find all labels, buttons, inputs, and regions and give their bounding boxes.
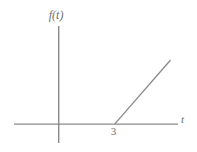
y-axis-label: f(t) [49, 9, 64, 21]
ramp-function-figure: f(t) t 3 [0, 0, 197, 152]
plot-canvas [0, 0, 197, 152]
x-axis-label: t [181, 114, 184, 125]
x-axis-tick-label-3: 3 [111, 126, 117, 137]
ramp-segment-line [115, 60, 171, 124]
